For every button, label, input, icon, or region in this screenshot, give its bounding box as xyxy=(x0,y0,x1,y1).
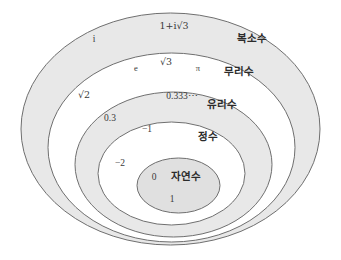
member-rational-repeating-third: 0.333⋯ xyxy=(166,91,197,101)
member-rational-zero-point-three: 0.3 xyxy=(104,113,116,123)
member-irrational-e: e xyxy=(134,63,138,73)
number-sets-svg: 복소수 i 1+i√3 무리수 e √3 π √2 유리수 0.333⋯ 0.3… xyxy=(0,0,341,260)
set-label-natural: 자연수 xyxy=(171,170,201,182)
number-sets-diagram: 복소수 i 1+i√3 무리수 e √3 π √2 유리수 0.333⋯ 0.3… xyxy=(0,0,341,260)
member-complex-i: i xyxy=(93,34,96,44)
member-integer-negative-two: −2 xyxy=(115,158,125,168)
set-label-complex: 복소수 xyxy=(237,32,267,44)
member-integer-negative-one: −1 xyxy=(142,124,152,134)
set-label-integer: 정수 xyxy=(198,130,218,142)
member-irrational-root-two: √2 xyxy=(78,89,90,100)
member-complex-one-plus-i-root-three: 1+i√3 xyxy=(159,20,188,31)
member-irrational-pi: π xyxy=(196,63,201,73)
set-label-rational: 유리수 xyxy=(207,98,237,110)
member-natural-one: 1 xyxy=(170,194,175,204)
ellipse-natural xyxy=(137,158,220,213)
member-irrational-root-three: √3 xyxy=(160,56,172,67)
set-label-irrational: 무리수 xyxy=(224,65,254,77)
member-natural-zero: 0 xyxy=(152,172,157,182)
